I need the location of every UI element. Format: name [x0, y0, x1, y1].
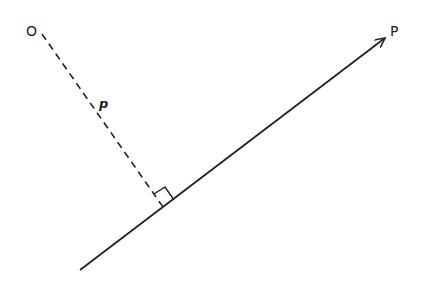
distance-label: p — [98, 96, 108, 111]
origin-label: O — [26, 23, 37, 39]
point-label: P — [390, 23, 398, 39]
perpendicular-dashed-line — [42, 34, 163, 207]
right-angle-marker — [154, 187, 174, 200]
perpendicular-distance-diagram: O P p — [0, 0, 424, 282]
